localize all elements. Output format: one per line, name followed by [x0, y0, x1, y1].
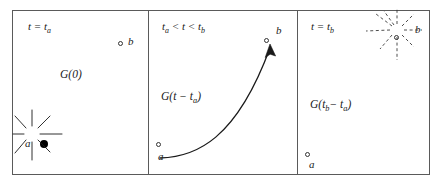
panel-2-green-label: G(t − ta) — [161, 90, 201, 105]
panel-1-point-b-label: b — [128, 35, 134, 47]
green-function-propagation-figure: t = ta b G(0) a ta < t < tb b G(t − ta) … — [0, 0, 442, 188]
panel-2: ta < t < tb b G(t − ta) a — [148, 10, 297, 175]
panel-2-time-tb-sub: b — [201, 26, 205, 35]
panel-3-green-label: G(tb− ta) — [310, 98, 351, 113]
panel-1-time-label: t = ta — [28, 20, 51, 35]
panel-3-point-b-label: b — [415, 23, 421, 35]
panel-3-point-a-label: a — [309, 158, 315, 170]
panel-2-green-prefix: G(t − t — [161, 90, 193, 102]
panel-2-point-a-marker — [156, 142, 161, 147]
panel-1-point-a-marker — [40, 140, 48, 148]
panel-2-time-lt1: < — [169, 20, 182, 32]
panel-3-time-prefix: t = t — [311, 20, 330, 32]
panel-1-green-label: G(0) — [60, 68, 82, 80]
panel-2-point-b-marker — [264, 38, 269, 43]
panel-2-green-suffix: ) — [197, 90, 201, 102]
panel-3-time-subscript: b — [330, 26, 334, 35]
panel-1-time-subscript: a — [47, 26, 51, 35]
panel-1-time-prefix: t = t — [28, 20, 47, 32]
panel-3-green-suffix: ) — [347, 98, 351, 110]
panel-1-point-a-label: a — [25, 137, 31, 149]
panel-3-time-label: t = tb — [311, 20, 334, 35]
panel-3-point-b-marker — [394, 35, 399, 40]
panel-2-point-a-label: a — [158, 150, 164, 162]
panel-3: t = tb b G(tb− ta) a — [297, 10, 430, 175]
panel-2-time-lt2: < — [185, 20, 198, 32]
panel-2-time-label: ta < t < tb — [162, 20, 205, 35]
panel-3-green-prefix: G(t — [310, 98, 325, 110]
panel-3-point-a-marker — [305, 152, 310, 157]
panel-3-green-mid: − t — [329, 98, 343, 110]
panel-1: t = ta b G(0) a — [12, 10, 148, 175]
panel-1-point-b-marker — [118, 41, 123, 46]
panel-2-point-b-label: b — [276, 24, 282, 36]
